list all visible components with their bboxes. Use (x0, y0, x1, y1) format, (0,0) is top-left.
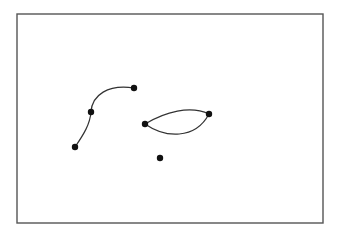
lens-upper-arc (145, 110, 209, 124)
diagram-frame (17, 14, 323, 223)
point-p1 (72, 144, 78, 150)
diagram-canvas (0, 0, 340, 233)
point-p3 (131, 85, 137, 91)
open-curve-lower (75, 112, 91, 147)
open-curve-upper (91, 87, 134, 112)
points-group (72, 85, 212, 161)
point-p2 (88, 109, 94, 115)
point-p4 (142, 121, 148, 127)
curves-group (75, 87, 209, 147)
point-p5 (206, 111, 212, 117)
point-p6 (157, 155, 163, 161)
lens-lower-arc (145, 114, 209, 134)
